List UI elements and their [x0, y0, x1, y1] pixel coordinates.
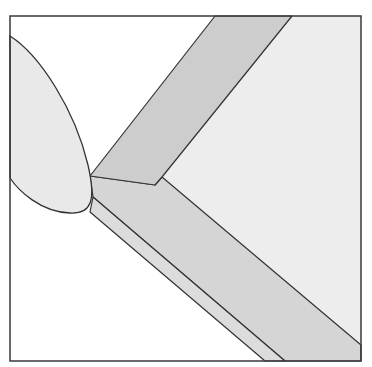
geometric-diagram: [0, 0, 372, 367]
diagram-canvas: [0, 0, 372, 367]
